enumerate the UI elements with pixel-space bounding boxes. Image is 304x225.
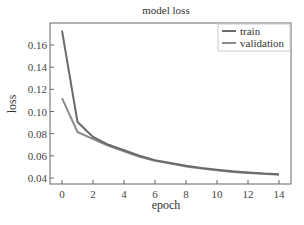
y-axis-label: loss [5, 94, 19, 113]
x-tick-label: 10 [212, 188, 224, 200]
x-tick-label: 8 [183, 188, 189, 200]
legend-label-train: train [240, 25, 261, 37]
chart-title: model loss [142, 4, 189, 16]
legend-label-validation: validation [240, 37, 284, 49]
y-tick-label: 0.06 [28, 150, 48, 162]
y-tick-label: 0.04 [28, 172, 48, 184]
y-tick-label: 0.16 [28, 39, 48, 51]
y-tick-label: 0.10 [28, 106, 48, 118]
legend: train validation [218, 24, 290, 51]
x-tick-label: 0 [59, 188, 65, 200]
x-axis-label: epoch [152, 198, 181, 212]
x-tick-label: 2 [90, 188, 96, 200]
x-tick-label: 4 [121, 188, 127, 200]
y-tick-label: 0.14 [28, 61, 48, 73]
y-tick-label: 0.08 [28, 128, 48, 140]
loss-chart: model loss 0.040.060.080.100.120.140.16 … [0, 0, 304, 225]
x-tick-label: 14 [274, 188, 286, 200]
y-tick-label: 0.12 [28, 83, 47, 95]
x-tick-label: 12 [243, 188, 254, 200]
